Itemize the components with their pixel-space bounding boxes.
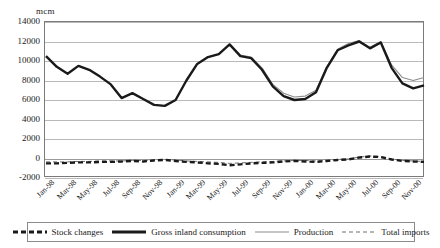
legend-item: Total imports bbox=[342, 227, 429, 237]
x-tick-label: Jul-98 bbox=[101, 178, 122, 199]
x-tick-label: May-99 bbox=[205, 178, 229, 202]
legend-swatch-icon bbox=[13, 228, 47, 236]
y-tick-label: -2000 bbox=[19, 172, 40, 182]
legend-item: Stock changes bbox=[13, 227, 104, 237]
y-tick-label: 6000 bbox=[22, 94, 40, 104]
x-tick-label: May-00 bbox=[334, 178, 358, 202]
x-tick-label: Mar-99 bbox=[184, 178, 207, 201]
x-tick-label: Jan-00 bbox=[294, 178, 315, 199]
y-axis-tick-labels: 14000120001000080006000400020000-2000 bbox=[0, 21, 42, 177]
legend-label: Total imports bbox=[381, 227, 429, 237]
x-tick-label: Jan-99 bbox=[165, 178, 186, 199]
x-tick-label: May-98 bbox=[75, 178, 99, 202]
chart-figure: mcm 14000120001000080006000400020000-200… bbox=[0, 0, 440, 248]
series-line bbox=[46, 42, 424, 106]
x-tick-label: Mar-98 bbox=[55, 178, 78, 201]
y-tick-label: 12000 bbox=[18, 36, 41, 46]
x-tick-label: Sep-00 bbox=[380, 178, 402, 200]
y-tick-label: 10000 bbox=[18, 55, 41, 65]
y-axis-unit-label: mcm bbox=[36, 6, 55, 16]
series-layer bbox=[45, 22, 425, 178]
x-axis-tick-labels: Jan-98Mar-98May-98Jul-98Sep-98Nov-98Jan-… bbox=[44, 178, 424, 220]
legend-label: Production bbox=[294, 227, 334, 237]
y-tick-label: 0 bbox=[36, 153, 41, 163]
y-tick-label: 8000 bbox=[22, 75, 40, 85]
x-tick-label: Nov-00 bbox=[400, 178, 424, 202]
legend-swatch-icon bbox=[342, 228, 376, 236]
y-tick-label: 2000 bbox=[22, 133, 40, 143]
plot-area bbox=[44, 21, 424, 177]
x-tick-label: Sep-99 bbox=[250, 178, 272, 200]
chart-legend: Stock changesGross inland consumptionPro… bbox=[27, 222, 415, 242]
x-tick-label: Nov-99 bbox=[270, 178, 294, 202]
legend-label: Gross inland consumption bbox=[151, 227, 246, 237]
x-tick-label: Jul-00 bbox=[360, 178, 381, 199]
legend-item: Production bbox=[255, 227, 334, 237]
x-tick-label: Jul-99 bbox=[230, 178, 251, 199]
legend-swatch-icon bbox=[255, 228, 289, 236]
y-tick-label: 14000 bbox=[18, 16, 41, 26]
legend-swatch-icon bbox=[112, 228, 146, 236]
y-tick-label: 4000 bbox=[22, 114, 40, 124]
legend-item: Gross inland consumption bbox=[112, 227, 246, 237]
x-tick-label: Sep-98 bbox=[120, 178, 142, 200]
x-tick-label: Nov-98 bbox=[141, 178, 165, 202]
series-line bbox=[46, 157, 424, 166]
x-tick-label: Mar-00 bbox=[314, 178, 337, 201]
legend-label: Stock changes bbox=[52, 227, 104, 237]
